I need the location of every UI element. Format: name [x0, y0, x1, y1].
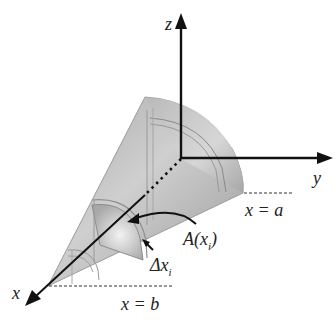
y-axis-arrowhead	[317, 152, 333, 164]
cone-volume-diagram: z y x x = a x = b A(xi) Δxi	[0, 0, 335, 323]
delta-label: Δxi	[149, 255, 172, 278]
bound-b-label: x = b	[120, 294, 159, 314]
x-axis-label: x	[11, 283, 20, 303]
y-axis-label: y	[311, 168, 321, 188]
z-axis-label: z	[164, 14, 172, 34]
bound-a-label: x = a	[244, 200, 283, 220]
z-axis-arrowhead	[175, 13, 187, 29]
area-label: A(xi)	[182, 229, 217, 252]
